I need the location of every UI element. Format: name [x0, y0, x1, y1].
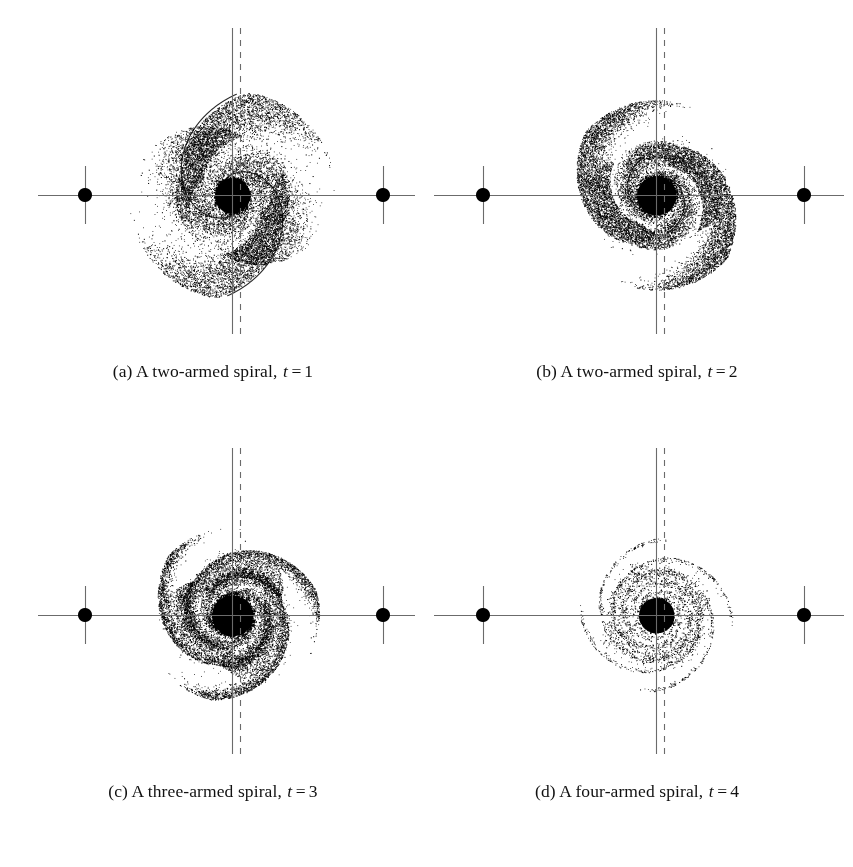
spiral-canvas-d [424, 442, 850, 802]
panel-c-caption: (c) A three-armed spiral, t=3 [0, 780, 426, 802]
panel-c: (c) A three-armed spiral, t=3 [0, 442, 426, 867]
panel-b-caption-text: A two-armed spiral, [561, 361, 702, 381]
panel-b-label: (b) [536, 361, 557, 381]
panel-a-caption-value: 1 [304, 361, 313, 381]
panel-d-caption-value: 4 [730, 781, 739, 801]
spiral-canvas-a [0, 22, 426, 382]
panel-b-plot [424, 22, 850, 382]
panel-a-plot [0, 22, 426, 382]
panel-a-caption-text: A two-armed spiral, [136, 361, 277, 381]
panel-b-caption-equals: = [712, 361, 728, 381]
panel-a-caption: (a) A two-armed spiral, t=1 [0, 360, 426, 382]
panel-b: (b) A two-armed spiral, t=2 [424, 22, 850, 455]
panel-d-caption-equals: = [714, 781, 730, 801]
panel-d-caption: (d) A four-armed spiral, t=4 [424, 780, 850, 802]
panel-a-caption-variable: t [282, 361, 288, 381]
panel-c-caption-equals: = [292, 781, 308, 801]
panel-d: (d) A four-armed spiral, t=4 [424, 442, 850, 867]
panel-c-caption-text: A three-armed spiral, [132, 781, 282, 801]
panel-d-caption-text: A four-armed spiral, [559, 781, 703, 801]
panel-a: (a) A two-armed spiral, t=1 [0, 22, 426, 455]
spiral-canvas-c [0, 442, 426, 802]
spiral-canvas-b [424, 22, 850, 382]
panel-d-plot [424, 442, 850, 802]
spiral-figure: (a) A two-armed spiral, t=1 (b) A two-ar… [0, 0, 853, 867]
panel-a-label: (a) [113, 361, 133, 381]
panel-c-plot [0, 442, 426, 802]
panel-b-caption: (b) A two-armed spiral, t=2 [424, 360, 850, 382]
panel-b-caption-value: 2 [729, 361, 738, 381]
panel-c-caption-value: 3 [309, 781, 318, 801]
panel-d-label: (d) [535, 781, 556, 801]
panel-d-caption-variable: t [708, 781, 714, 801]
panel-a-caption-equals: = [288, 361, 304, 381]
panel-c-label: (c) [108, 781, 128, 801]
